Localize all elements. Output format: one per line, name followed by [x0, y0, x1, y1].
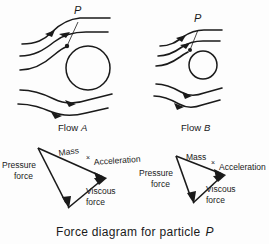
flow-a-caption-text: Flow	[58, 122, 78, 133]
left-acceleration-label: Acceleration	[93, 154, 141, 167]
flow-b-streamline-1	[160, 30, 222, 46]
flow-b-streamline-4	[156, 84, 222, 95]
right-viscous-force-label-line2: force	[206, 195, 225, 205]
flow-b-cylinder	[189, 51, 217, 79]
left-times-symbol: ×	[86, 154, 90, 161]
right-times-symbol: ×	[211, 159, 215, 166]
right-pressure-force-label-line1: Pressure	[139, 168, 173, 178]
left-mass-label: Mass	[58, 145, 80, 158]
flow-a-particle-label: P	[74, 4, 82, 16]
flow-b-arrowhead-4	[182, 92, 192, 99]
right-mass-label: Mass	[186, 152, 206, 162]
flow-b-caption-symbol: B	[204, 122, 211, 133]
flow-b-streamline-3	[156, 52, 188, 66]
left-pressure-force-label-line1: Pressure	[2, 160, 36, 170]
flow-b-particle-dot	[188, 48, 192, 52]
right-acceleration-label: Acceleration	[219, 162, 266, 172]
flow-a-panel	[18, 18, 112, 119]
right-viscous-force-arrowhead-tip	[213, 175, 226, 182]
flow-a-cylinder	[66, 46, 110, 90]
right-pressure-force-label-line2: force	[151, 179, 170, 189]
right-pressure-force-vector	[176, 156, 191, 198]
flow-b-panel	[154, 30, 222, 110]
flow-b-particle-label: P	[194, 12, 202, 24]
flow-a-particle-dot	[65, 44, 69, 48]
left-viscous-force-label-line1: Viscous	[86, 186, 116, 196]
figure-caption-symbol: P	[206, 225, 214, 239]
flow-a-streamline-1	[22, 18, 110, 44]
right-viscous-force-label-line1: Viscous	[206, 184, 236, 194]
force-diagram-figure: P FlowA P FlowB	[0, 0, 269, 244]
left-viscous-force-label-line2: force	[86, 197, 105, 207]
figure-caption: Force diagram for particleP	[56, 225, 214, 239]
flow-b-caption-text: Flow	[181, 122, 201, 133]
flow-a-streamline-5	[18, 104, 108, 115]
flow-b-caption: FlowB	[181, 122, 211, 133]
left-pressure-force-label-line2: force	[14, 171, 33, 181]
flow-a-caption-symbol: A	[80, 122, 87, 133]
figure-caption-text: Force diagram for particle	[56, 225, 201, 239]
flow-a-caption: FlowA	[58, 122, 87, 133]
figure-canvas: P FlowA P FlowB	[0, 0, 269, 244]
